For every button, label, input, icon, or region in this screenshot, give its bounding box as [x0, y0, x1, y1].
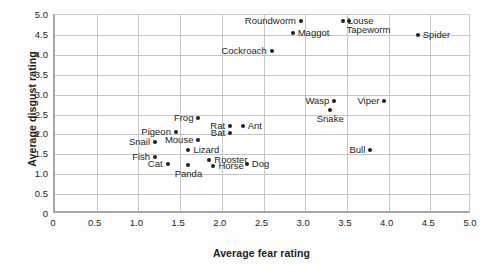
data-point	[416, 33, 420, 37]
data-point-label: Maggot	[298, 28, 330, 38]
data-point-label: Frog	[174, 114, 194, 124]
y-axis-tick-label: 3.5	[12, 68, 48, 79]
data-point	[196, 138, 200, 142]
data-point-label: Roundworm	[245, 16, 296, 26]
data-point	[299, 19, 303, 23]
data-point-label: Snake	[317, 114, 344, 124]
y-axis-tick-label: 4.0	[12, 48, 48, 59]
x-axis-tick-label: 0	[50, 217, 55, 228]
scatter-plot-figure: Average disgust rating Average fear rati…	[0, 0, 488, 274]
data-point	[186, 163, 190, 167]
gridline-vertical	[138, 15, 139, 211]
data-point-label: Dog	[252, 160, 269, 170]
x-axis-tick-label: 4.5	[422, 217, 435, 228]
gridline-horizontal	[55, 35, 469, 36]
plot-area: RoundwormLouseTapewormMaggotSpiderCockro…	[53, 14, 470, 213]
data-point	[207, 158, 211, 162]
data-point	[328, 108, 332, 112]
data-point-label: Tapeworm	[347, 25, 391, 35]
data-point-label: Cat	[148, 160, 163, 170]
data-point	[228, 124, 232, 128]
x-axis-tick-label: 5.0	[463, 217, 476, 228]
gridline-horizontal	[55, 95, 469, 96]
data-point-label: Cockroach	[221, 46, 266, 56]
y-axis-tick-label: 2.5	[12, 108, 48, 119]
gridline-horizontal	[55, 194, 469, 195]
gridline-horizontal	[55, 75, 469, 76]
data-point	[241, 124, 245, 128]
data-point-label: Bull	[349, 146, 365, 156]
data-point-label: Snail	[129, 138, 150, 148]
data-point	[166, 162, 170, 166]
data-point	[245, 162, 249, 166]
gridline-vertical	[305, 15, 306, 211]
x-axis-tick-label: 3.0	[297, 217, 310, 228]
data-point-label: Viper	[357, 96, 379, 106]
gridline-vertical	[97, 15, 98, 211]
data-point-label: Wasp	[305, 96, 329, 106]
gridline-horizontal	[55, 134, 469, 135]
gridline-horizontal	[55, 115, 469, 116]
data-point	[196, 116, 200, 120]
data-point-label: Spider	[423, 30, 450, 40]
data-point	[341, 19, 345, 23]
data-point	[211, 164, 215, 168]
y-axis-tick-label: 5.0	[12, 9, 48, 20]
gridline-horizontal	[55, 174, 469, 175]
x-axis-tick-label: 3.5	[338, 217, 351, 228]
x-axis-tick-label: 1.0	[130, 217, 143, 228]
y-axis-tick-label: 2.0	[12, 128, 48, 139]
x-axis-tick-label: 1.5	[171, 217, 184, 228]
gridline-horizontal	[55, 154, 469, 155]
gridline-vertical	[389, 15, 390, 211]
gridline-vertical	[347, 15, 348, 211]
y-axis-tick-label: 4.5	[12, 28, 48, 39]
x-axis-tick-label: 2.0	[213, 217, 226, 228]
x-axis-tick-label: 2.5	[255, 217, 268, 228]
x-axis-tick-label: 0.5	[88, 217, 101, 228]
y-axis-tick-label: 1.5	[12, 148, 48, 159]
data-point	[332, 99, 336, 103]
y-axis-tick-label: 0	[12, 208, 48, 219]
data-point	[382, 99, 386, 103]
x-axis-tick-label: 4.0	[380, 217, 393, 228]
data-point-label: Mouse	[165, 136, 194, 146]
data-point	[228, 131, 232, 135]
y-axis-tick-label: 0.5	[12, 188, 48, 199]
data-point	[347, 19, 351, 23]
data-point	[270, 49, 274, 53]
data-point	[368, 148, 372, 152]
data-point-label: Panda	[175, 169, 202, 179]
data-point-label: Bat	[211, 128, 225, 138]
y-axis-tick-label: 1.0	[12, 168, 48, 179]
y-axis-tick-label: 3.0	[12, 88, 48, 99]
data-point	[291, 31, 295, 35]
gridline-vertical	[430, 15, 431, 211]
data-point-label: Horse	[218, 161, 243, 171]
data-point	[153, 140, 157, 144]
data-point	[186, 148, 190, 152]
x-axis-title: Average fear rating	[53, 247, 470, 259]
data-point-label: Ant	[248, 122, 262, 132]
